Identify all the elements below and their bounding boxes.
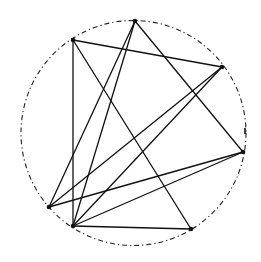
vertex-F [71, 224, 76, 229]
diagram-canvas [0, 0, 261, 262]
edge-F-G [73, 226, 191, 229]
vertex-E [47, 205, 52, 210]
edge-A-D [135, 21, 243, 152]
inscribed-graph-svg [0, 0, 261, 262]
dash-dot-circle [21, 21, 246, 246]
vertex-D [241, 150, 246, 155]
vertex-G [189, 227, 194, 232]
edge-C-E [49, 67, 222, 207]
edge-D-E [49, 152, 243, 207]
vertex-C [220, 65, 225, 70]
chord-edges [49, 21, 243, 229]
edge-D-F [73, 152, 243, 226]
circumscribed-circle [21, 21, 246, 246]
vertex-B [71, 38, 76, 43]
edge-B-C [73, 40, 222, 67]
edge-C-F [73, 67, 222, 226]
edge-A-E [49, 21, 135, 207]
vertex-A [133, 19, 138, 24]
